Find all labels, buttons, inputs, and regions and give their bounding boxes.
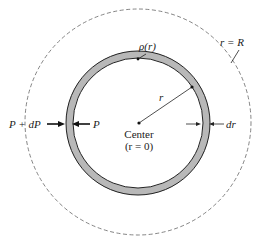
pressure-outer-label: P + dP	[8, 118, 41, 130]
radius-line	[139, 87, 192, 123]
thickness-label: dr	[226, 118, 237, 130]
pressure-inner-label: P	[92, 118, 100, 130]
stellar-shell-diagram: ρ(r) r = R r P + dP P dr Center (r = 0)	[0, 0, 267, 240]
outer-boundary-label: r = R	[220, 36, 244, 48]
pressure-outer-arrowhead	[58, 121, 65, 127]
center-coord-label: (r = 0)	[125, 140, 154, 153]
dr-left-arrowhead	[196, 122, 201, 126]
density-point	[137, 58, 140, 61]
radius-endpoint	[190, 85, 193, 88]
boundary-leader-line	[231, 50, 239, 63]
center-label: Center	[124, 128, 154, 140]
density-label: ρ(r)	[138, 40, 156, 53]
radius-label: r	[159, 91, 164, 103]
